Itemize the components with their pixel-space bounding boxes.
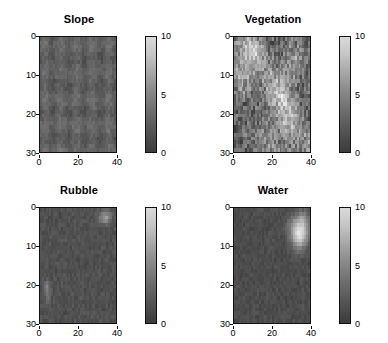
- colorbar-tick-label: 0: [355, 320, 360, 329]
- colorbar-ticks-water: 0510: [352, 207, 376, 324]
- subplot-title-water: Water: [194, 184, 352, 197]
- y-tick-label: 10: [10, 242, 36, 251]
- y-tick-mark: [230, 324, 233, 325]
- x-tick-mark: [233, 155, 234, 158]
- colorbar-tick-label: 0: [161, 320, 166, 329]
- y-tick-mark: [230, 75, 233, 76]
- y-tick-label: 20: [204, 281, 230, 290]
- x-tick-label: 40: [298, 157, 324, 167]
- y-tick-mark: [36, 207, 39, 208]
- y-tick-label: 20: [10, 281, 36, 290]
- x-tick-mark: [78, 326, 79, 329]
- colorbar-tick-label: 5: [161, 91, 166, 100]
- x-tick-label: 0: [26, 157, 52, 167]
- y-tick-mark: [230, 207, 233, 208]
- colorbar-slope[interactable]: [145, 36, 157, 153]
- heatmap-grid: [234, 37, 310, 152]
- subplot-slope: Slope 0102030 02040 0510: [0, 0, 194, 171]
- y-tick-mark: [36, 36, 39, 37]
- x-tick-mark: [272, 155, 273, 158]
- y-tick-mark: [230, 285, 233, 286]
- colorbar-water[interactable]: [339, 207, 351, 324]
- y-tick-label: 20: [10, 110, 36, 119]
- x-tick-label: 0: [220, 328, 246, 338]
- heatmap-vegetation[interactable]: [233, 36, 311, 153]
- x-axis-slope: 02040: [39, 155, 117, 169]
- x-tick-mark: [311, 326, 312, 329]
- y-tick-mark: [230, 246, 233, 247]
- x-tick-mark: [117, 155, 118, 158]
- x-tick-label: 40: [298, 328, 324, 338]
- y-tick-mark: [36, 324, 39, 325]
- y-axis-rubble: 0102030: [9, 207, 36, 324]
- colorbar-tick-label: 0: [161, 149, 166, 158]
- x-tick-label: 20: [65, 157, 91, 167]
- heatmap-slope[interactable]: [39, 36, 117, 153]
- colorbar-ticks-rubble: 0510: [158, 207, 182, 324]
- x-tick-mark: [39, 155, 40, 158]
- y-tick-mark: [230, 153, 233, 154]
- colorbar-tick-label: 10: [355, 203, 365, 212]
- y-tick-label: 0: [204, 32, 230, 41]
- y-tick-label: 0: [204, 203, 230, 212]
- y-tick-label: 10: [10, 71, 36, 80]
- colorbar-tick-label: 5: [161, 262, 166, 271]
- colorbar-tick-label: 5: [355, 262, 360, 271]
- x-tick-mark: [39, 326, 40, 329]
- heatmap-water[interactable]: [233, 207, 311, 324]
- x-tick-label: 0: [220, 157, 246, 167]
- x-axis-vegetation: 02040: [233, 155, 311, 169]
- x-tick-label: 20: [259, 157, 285, 167]
- y-tick-mark: [36, 153, 39, 154]
- subplot-water: Water 0102030 02040 0510: [194, 171, 388, 342]
- heatmap-rubble[interactable]: [39, 207, 117, 324]
- x-tick-label: 40: [104, 328, 130, 338]
- colorbar-rubble[interactable]: [145, 207, 157, 324]
- subplot-rubble: Rubble 0102030 02040 0510: [0, 171, 194, 342]
- subplot-title-vegetation: Vegetation: [194, 13, 352, 26]
- subplot-vegetation: Vegetation 0102030 02040 0510: [194, 0, 388, 171]
- colorbar-tick-label: 10: [161, 203, 171, 212]
- heatmap-grid: [40, 37, 116, 152]
- x-tick-label: 0: [26, 328, 52, 338]
- x-tick-label: 40: [104, 157, 130, 167]
- y-axis-vegetation: 0102030: [203, 36, 230, 153]
- y-axis-water: 0102030: [203, 207, 230, 324]
- x-tick-mark: [233, 326, 234, 329]
- y-tick-mark: [36, 246, 39, 247]
- y-tick-label: 10: [204, 242, 230, 251]
- x-axis-rubble: 02040: [39, 326, 117, 340]
- colorbar-tick-label: 5: [355, 91, 360, 100]
- y-tick-label: 10: [204, 71, 230, 80]
- figure-canvas: Slope 0102030 02040 0510 Vegetation 0102…: [0, 0, 388, 343]
- y-tick-label: 20: [204, 110, 230, 119]
- x-tick-label: 20: [259, 328, 285, 338]
- colorbar-vegetation[interactable]: [339, 36, 351, 153]
- y-tick-mark: [230, 114, 233, 115]
- x-tick-mark: [78, 155, 79, 158]
- colorbar-tick-label: 10: [355, 32, 365, 41]
- y-tick-label: 0: [10, 32, 36, 41]
- subplot-title-slope: Slope: [0, 13, 158, 26]
- x-tick-label: 20: [65, 328, 91, 338]
- y-tick-mark: [230, 36, 233, 37]
- y-tick-mark: [36, 285, 39, 286]
- x-tick-mark: [311, 155, 312, 158]
- heatmap-grid: [234, 208, 310, 323]
- y-tick-label: 0: [10, 203, 36, 212]
- y-tick-mark: [36, 114, 39, 115]
- y-tick-mark: [36, 75, 39, 76]
- y-axis-slope: 0102030: [9, 36, 36, 153]
- subplot-title-rubble: Rubble: [0, 184, 158, 197]
- x-tick-mark: [117, 326, 118, 329]
- colorbar-tick-label: 10: [161, 32, 171, 41]
- x-tick-mark: [272, 326, 273, 329]
- heatmap-grid: [40, 208, 116, 323]
- x-axis-water: 02040: [233, 326, 311, 340]
- colorbar-tick-label: 0: [355, 149, 360, 158]
- colorbar-ticks-slope: 0510: [158, 36, 182, 153]
- colorbar-ticks-vegetation: 0510: [352, 36, 376, 153]
